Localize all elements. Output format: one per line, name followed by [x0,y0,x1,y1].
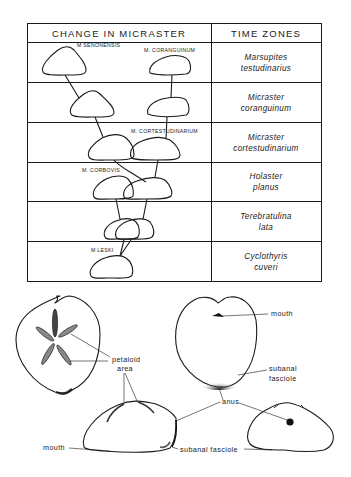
anus-periproct [286,418,293,425]
lineage-line [171,75,172,98]
header-time-zones: TIME ZONES [231,28,301,39]
zone-genus: Micraster [248,93,284,102]
shape-m-coranguinum [150,56,191,75]
label-area: area [117,364,133,373]
label-m-senonensis: M SENONENSIS [77,42,121,48]
leader-line [172,447,178,449]
shape-coranguinum-ancestor [148,97,189,117]
zone-cell-4: Holaster planus [250,172,283,192]
label-petaloid: petaloid [112,355,140,364]
oral-view: mouth subanal fasciole [176,297,297,400]
zone-cell-2: Micraster coranguinum [241,93,292,113]
shape-row4-right [124,178,172,200]
label-anus: anus [222,397,239,406]
petal [55,344,73,366]
leader-line [176,402,220,421]
petal-groove [107,404,124,422]
label-m-coranguinum: M. CORANGUINUM [144,47,195,53]
petal-anterior [52,309,57,337]
leader-line [222,314,268,316]
aboral-view: petaloid area [16,296,140,402]
zone-species: planus [252,183,279,192]
petal-groove [138,402,154,413]
zone-species: testudinarius [241,64,291,73]
label-fasciole: fasciole [269,374,297,383]
leader-line [71,334,110,357]
zone-genus: Terebratulina [240,212,292,221]
lineage-line [166,117,167,139]
zone-species: coranguinum [241,104,292,113]
shape-m-cortestudinarium [131,137,180,160]
leader-line [239,403,290,421]
petal [35,325,55,342]
shape-m-leski [90,256,133,278]
leader-line [125,373,137,401]
label-mouth-top: mouth [271,309,293,318]
posterior-view [248,403,334,452]
lineage-line [95,117,103,137]
zone-cell-6: Cyclothyris cuveri [244,252,287,272]
lineage-line [65,75,79,98]
zone-species: cortestudinarium [233,144,298,153]
mouth-peristome [212,313,224,317]
leader-line [69,448,110,451]
zone-cell-5: Terebratulina lata [240,212,292,232]
petal [40,342,56,365]
leader-line [238,370,267,375]
label-m-cortestudinarium: M. CORTESTUDINARIUM [131,128,198,134]
label-m-leski: M LESKI [91,247,114,253]
micraster-evolution-diagram: CHANGE IN MICRASTER TIME ZONES Marsupite… [0,0,351,477]
lateral-view: mouth subanal fasciole anus [43,397,290,454]
label-subanal-fasciole: subanal fasciole [180,445,238,454]
zone-cell-1: Marsupites testudinarius [241,53,291,73]
shape-m-corbovis [93,176,133,199]
test-outline-side-view [83,401,176,452]
zone-species: lata [259,223,274,232]
label-mouth-side: mouth [43,443,65,452]
label-subanal: subanal [269,364,297,373]
header-change-in-micraster: CHANGE IN MICRASTER [52,28,186,39]
shape-row5-left [104,219,139,239]
shading [56,389,72,393]
lineage-line [120,240,131,256]
shape-row5-right [116,219,154,239]
test-outline-top-view [16,296,100,393]
zone-species: cuveri [254,263,278,272]
micraster-anatomy: petaloid area mouth subanal fasciole mou [16,296,333,454]
evolution-table: CHANGE IN MICRASTER TIME ZONES Marsupite… [28,24,322,282]
zone-genus: Holaster [250,172,283,181]
shape-row3-left [88,135,134,160]
shape-m-senonensis [42,47,86,75]
subanal-shading [197,374,241,390]
zone-genus: Marsupites [244,53,287,62]
petaloid-star [35,309,79,366]
zone-cell-3: Micraster cortestudinarium [233,133,298,153]
fasciole-shading [160,442,170,447]
test-outline-posterior-view [248,403,334,452]
zone-genus: Cyclothyris [244,252,287,261]
label-m-corbovis: M. CORBOVIS [82,167,120,173]
zone-genus: Micraster [248,133,284,142]
